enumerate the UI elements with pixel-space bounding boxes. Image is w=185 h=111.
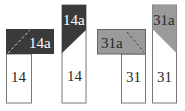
figure-3: 31a 31 bbox=[98, 30, 146, 104]
figure-4: 31a 31 bbox=[153, 5, 177, 103]
fig3-bottom-label: 31 bbox=[126, 69, 141, 85]
fig1-bottom-label: 14 bbox=[11, 69, 27, 85]
fig3-top-label: 31a bbox=[101, 35, 123, 51]
figure-1: 14a 14 bbox=[6, 29, 54, 103]
fig4-bottom-label: 31 bbox=[157, 69, 172, 85]
fig2-top-label: 14a bbox=[63, 12, 85, 28]
fig4-top-label: 31a bbox=[153, 12, 175, 28]
fig1-top-label: 14a bbox=[29, 35, 51, 51]
fig2-bottom-label: 14 bbox=[67, 68, 83, 84]
folding-diagram: 14a 14 14a 14 31a 31 31a 31 bbox=[0, 0, 185, 111]
figure-2: 14a 14 bbox=[62, 5, 86, 103]
